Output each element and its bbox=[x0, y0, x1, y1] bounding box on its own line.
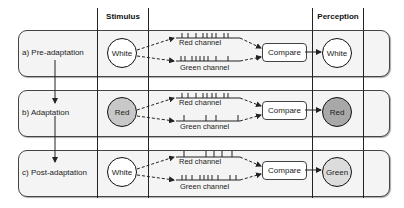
green-channel-label: Green channel bbox=[180, 182, 229, 191]
divider-line bbox=[97, 8, 98, 198]
divider-line bbox=[363, 8, 364, 198]
stimulus-circle: White bbox=[107, 157, 137, 187]
compare-box: Compare bbox=[262, 101, 307, 120]
stimulus-header: Stimulus bbox=[98, 12, 148, 21]
stimulus-circle: White bbox=[107, 38, 137, 68]
perception-circle: Green bbox=[322, 157, 352, 187]
row-label: a) Pre-adaptation bbox=[22, 48, 84, 57]
compare-box: Compare bbox=[262, 161, 307, 180]
stimulus-circle: Red bbox=[107, 97, 137, 127]
red-channel-label: Red channel bbox=[179, 38, 221, 47]
divider-line bbox=[148, 8, 149, 198]
perception-circle: White bbox=[322, 38, 352, 68]
row-label: b) Adaptation bbox=[22, 108, 69, 117]
perception-header: Perception bbox=[313, 12, 363, 21]
red-channel-label: Red channel bbox=[179, 98, 221, 107]
green-channel-label: Green channel bbox=[180, 63, 229, 72]
divider-line bbox=[312, 8, 313, 198]
row-label: c) Post-adaptation bbox=[22, 168, 87, 177]
perception-circle: Red bbox=[322, 97, 352, 127]
red-channel-label: Red channel bbox=[179, 157, 221, 166]
compare-box: Compare bbox=[262, 43, 307, 62]
green-channel-label: Green channel bbox=[180, 122, 229, 131]
